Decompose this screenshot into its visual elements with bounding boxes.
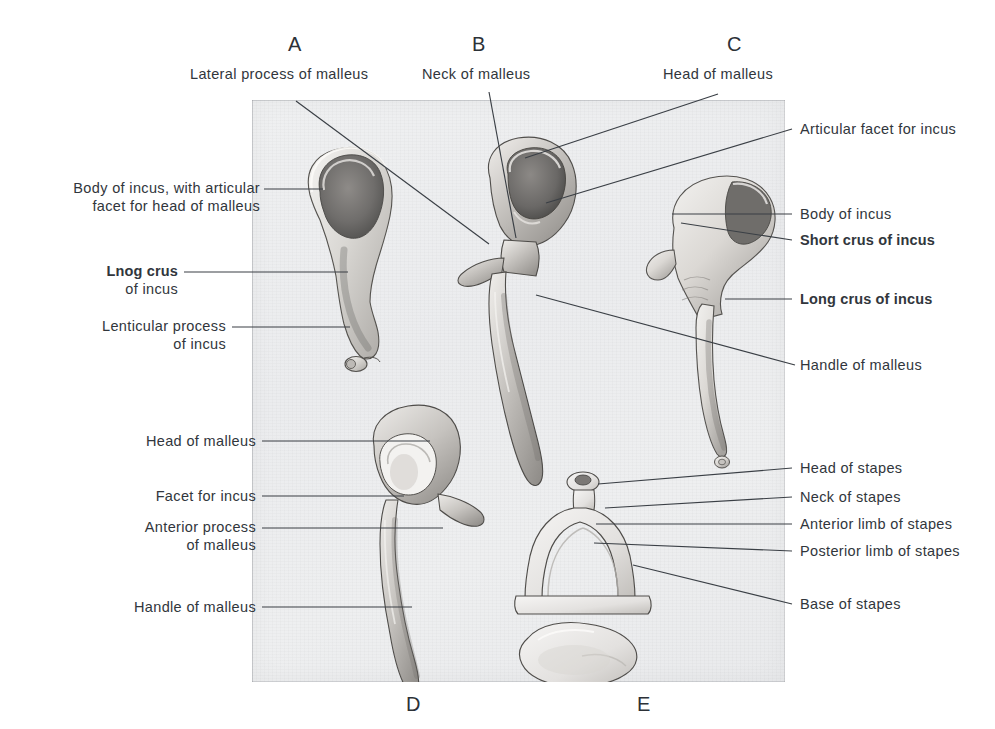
label-line-1: Anterior process	[12, 519, 256, 537]
drawing-malleus-b	[458, 137, 576, 485]
label-long-crus-of-incus: Long crus of incus	[800, 291, 932, 309]
label-line-1: Facet for incus	[12, 488, 256, 506]
label-facet-for-incus: Facet for incus	[12, 488, 256, 506]
label-anterior-process-of-malleus: Anterior process of malleus	[12, 519, 256, 554]
label-line-2: of incus	[12, 281, 178, 299]
panel-letter-c: C	[727, 34, 742, 54]
label-handle-of-malleus-right: Handle of malleus	[800, 357, 922, 375]
label-line-1: Lnog crus	[12, 263, 178, 281]
label-short-crus-of-incus: Short crus of incus	[800, 232, 935, 250]
label-lenticular-process-of-incus: Lenticular process of incus	[12, 318, 226, 353]
panel-letter-b: B	[472, 34, 486, 54]
label-lnog-crus-of-incus: Lnog crus of incus	[12, 263, 178, 298]
drawing-stapes-e	[515, 472, 651, 682]
label-articular-facet-for-incus: Articular facet for incus	[800, 121, 956, 139]
label-neck-of-stapes: Neck of stapes	[800, 489, 901, 507]
label-anterior-limb-of-stapes: Anterior limb of stapes	[800, 516, 952, 534]
label-head-of-stapes: Head of stapes	[800, 460, 902, 478]
label-line-1: Body of incus, with articular	[12, 180, 260, 198]
panel-letter-d: D	[406, 694, 421, 714]
anatomy-figure: A B C D E Lateral process of malleus Nec…	[0, 0, 995, 729]
label-body-of-incus-with-articular-facet: Body of incus, with articular facet for …	[12, 180, 260, 215]
label-base-of-stapes: Base of stapes	[800, 596, 901, 614]
label-head-of-malleus-left: Head of malleus	[12, 433, 256, 451]
panel-letter-e: E	[637, 694, 651, 714]
panel-letter-a: A	[288, 34, 302, 54]
label-posterior-limb-of-stapes: Posterior limb of stapes	[800, 543, 960, 561]
label-line-1: Handle of malleus	[12, 599, 256, 617]
label-line-1: Lenticular process	[12, 318, 226, 336]
label-handle-of-malleus-left: Handle of malleus	[12, 599, 256, 617]
drawing-incus-a	[308, 147, 392, 371]
drawing-incus-c	[646, 176, 775, 468]
label-line-2: of malleus	[12, 537, 256, 555]
drawing-malleus-d	[373, 405, 484, 682]
label-line-2: facet for head of malleus	[12, 198, 260, 216]
specimen-a-incus-medial-view	[252, 100, 785, 682]
label-body-of-incus: Body of incus	[800, 206, 892, 224]
label-head-of-malleus-top: Head of malleus	[663, 66, 773, 84]
label-line-1: Head of malleus	[12, 433, 256, 451]
label-lateral-process-of-malleus: Lateral process of malleus	[190, 66, 368, 84]
label-neck-of-malleus: Neck of malleus	[422, 66, 530, 84]
label-line-2: of incus	[12, 336, 226, 354]
